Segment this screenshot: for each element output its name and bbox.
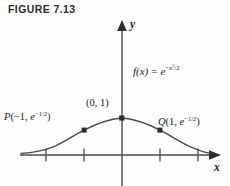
function-exponent: −x2/2 [165,64,179,71]
x-axis-arrowhead [209,150,221,160]
point-p-exponent: −1/2 [35,110,47,117]
function-name: f(x) [133,65,148,77]
point-p-paren-close: ) [47,111,51,122]
point-p-label: P(−1, e−1/2) [4,112,51,123]
point-q-label: Q(1, e−1/2) [158,117,200,128]
exponent-denominator: /2 [174,64,179,71]
point-marker-p [82,128,87,133]
point-q-name: Q [158,116,166,127]
y-axis-label: y [130,19,135,31]
point-q-x-value: 1, [169,116,177,127]
y-axis-arrowhead [117,20,127,31]
peak-coordinates: (0, 1) [86,97,109,108]
equals-sign: = [148,65,160,77]
y-axis [117,20,127,186]
x-axis [20,150,221,160]
point-marker-peak [119,115,124,120]
peak-point-label: (0, 1) [86,98,109,109]
point-q-paren-close: ) [196,116,200,127]
figure-container: FIGURE 7.13 f(x)=e−x2/2 [0,0,230,186]
point-p-x-value: −1, [14,111,28,122]
point-marker-q [157,128,162,133]
point-q-exponent: −1/2 [184,115,196,122]
x-axis-label: x [214,162,220,174]
function-equation-label: f(x)=e−x2/2 [133,66,180,77]
plot-area [0,0,230,186]
